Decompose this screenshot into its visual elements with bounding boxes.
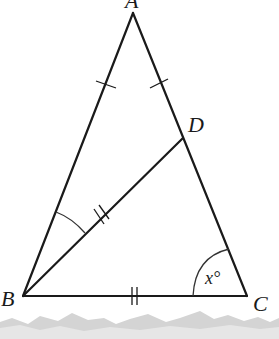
label-angle-x: x° xyxy=(204,268,220,288)
label-d: D xyxy=(187,112,204,137)
segment-bd xyxy=(23,138,183,296)
label-a: A xyxy=(123,0,139,13)
label-c: C xyxy=(253,291,268,316)
segment-ab xyxy=(23,13,133,296)
angle-arc-b xyxy=(56,212,85,233)
segment-ac xyxy=(133,13,247,296)
label-b: B xyxy=(1,286,14,311)
geometry-diagram: A B C D x° xyxy=(0,0,279,339)
